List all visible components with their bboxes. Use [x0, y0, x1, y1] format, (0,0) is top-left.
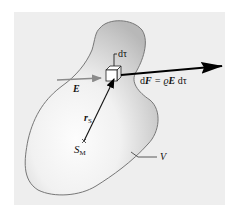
diagram-canvas: dτ E dF = ϱE dτ rS SM V — [0, 0, 236, 216]
force-equation: dF = ϱE dτ — [140, 75, 187, 86]
force-eq-dtau: dτ — [175, 75, 187, 86]
volume-element-label: dτ — [118, 48, 127, 59]
field-label: E — [72, 83, 80, 94]
volume-element-cube — [106, 66, 121, 81]
center-S-sub: M — [80, 149, 87, 157]
position-r-sub: S — [88, 117, 92, 125]
force-eq-rho: = ϱ — [152, 75, 169, 86]
